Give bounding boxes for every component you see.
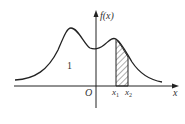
y-axis-arrow-icon xyxy=(94,10,99,17)
density-diagram: f(x) x O 1 x1 x2 xyxy=(0,0,185,124)
y-axis-label: f(x) xyxy=(100,10,115,22)
x2-label: x2 xyxy=(124,87,132,98)
x-axis-label: x xyxy=(172,87,178,98)
area-label: 1 xyxy=(67,60,72,71)
x1-label: x1 xyxy=(111,87,119,98)
origin-label: O xyxy=(85,87,92,98)
density-curve xyxy=(15,28,162,82)
